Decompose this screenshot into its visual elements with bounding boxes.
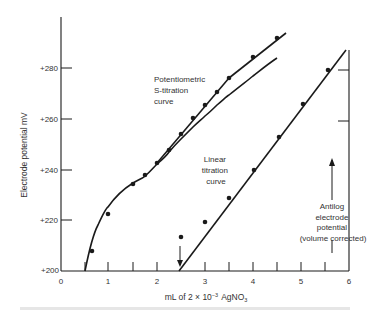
y-tick-200: +200 — [41, 266, 60, 275]
y-tick-labels: +200 +220 +240 +260 +280 — [40, 64, 60, 275]
x-tick-labels: 0 1 2 3 4 5 6 — [59, 277, 352, 286]
annotation-linear: Linear titration curve — [202, 155, 230, 186]
secondary-tick-marks — [338, 70, 349, 121]
y-axis-title: Electrode potential mV — [19, 112, 29, 198]
y-tick-marks — [61, 68, 72, 220]
s-curve-top-extension — [229, 33, 286, 78]
x-tick-marks — [85, 262, 325, 271]
s-curve-points — [90, 36, 280, 254]
linear-points — [179, 68, 331, 240]
annotation-s-curve: Potentiometric S-titration curve — [154, 75, 207, 106]
x-tick-2: 2 — [155, 277, 160, 286]
y-tick-260: +260 — [40, 115, 59, 124]
y-tick-240: +240 — [40, 166, 59, 175]
x-tick-3: 3 — [203, 277, 208, 286]
x-tick-1: 1 — [106, 277, 111, 286]
caption-faint — [20, 307, 350, 310]
x-tick-0: 0 — [59, 277, 64, 286]
y-tick-220: +220 — [40, 216, 59, 225]
x-axis-title: mL of 2 × 10−3AgNO3 — [165, 292, 248, 303]
endpoint-arrow-icon — [177, 246, 183, 267]
y-tick-280: +280 — [40, 64, 59, 73]
titration-chart: +200 +220 +240 +260 +280 0 1 2 3 4 5 6 E… — [0, 0, 368, 311]
x-tick-6: 6 — [347, 277, 352, 286]
x-tick-4: 4 — [251, 277, 256, 286]
annotation-antilog: Antilog electrode potential (volume corr… — [300, 202, 367, 243]
x-tick-5: 5 — [299, 277, 304, 286]
